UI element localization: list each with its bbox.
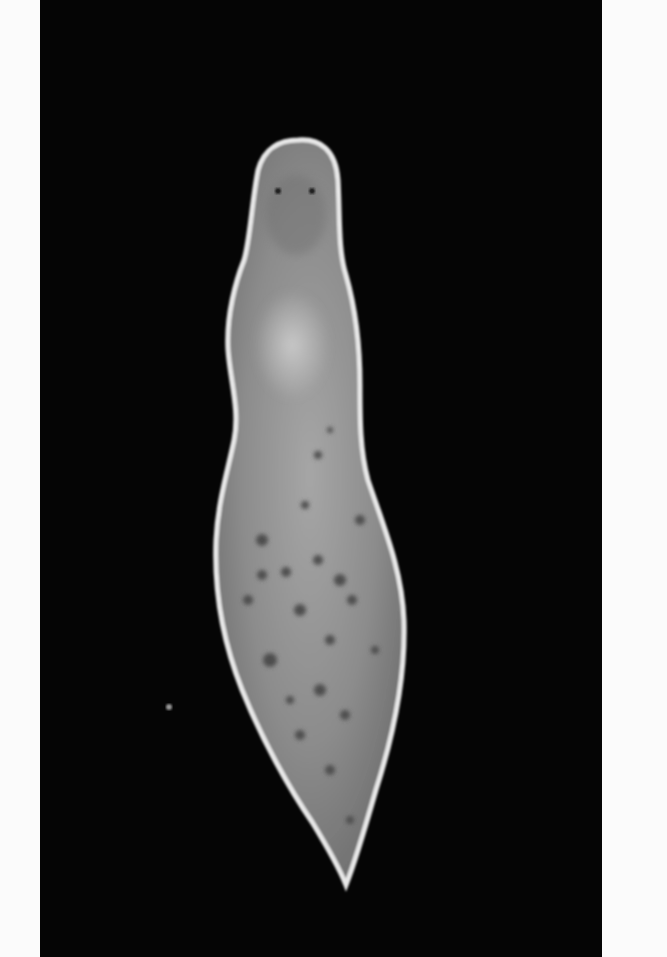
micrograph-photo [40,0,602,957]
eyespot-right [309,188,315,194]
eyespot-left [275,188,281,194]
planarian-illustration [40,0,602,957]
dust-speck [166,704,172,710]
pharynx-highlight [254,290,330,400]
worm-body [216,140,404,885]
head-region [266,175,326,255]
